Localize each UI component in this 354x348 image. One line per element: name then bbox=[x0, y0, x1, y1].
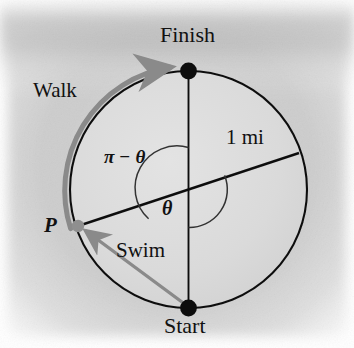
angle-pi-minus-theta-label: π − θ bbox=[104, 147, 145, 166]
point-p-marker bbox=[72, 220, 84, 232]
swim-label: Swim bbox=[116, 240, 165, 261]
point-p-label: P bbox=[44, 215, 57, 236]
start-label: Start bbox=[164, 315, 206, 337]
figure-canvas bbox=[0, 0, 354, 348]
finish-label: Finish bbox=[160, 24, 215, 46]
swim-walk-circle-figure: Finish Start Walk Swim 1 mi P π − θ θ bbox=[0, 0, 354, 348]
walk-label: Walk bbox=[33, 80, 77, 101]
radius-length-label: 1 mi bbox=[226, 127, 264, 148]
finish-point-marker bbox=[180, 63, 197, 80]
angle-theta-label: θ bbox=[162, 198, 172, 218]
